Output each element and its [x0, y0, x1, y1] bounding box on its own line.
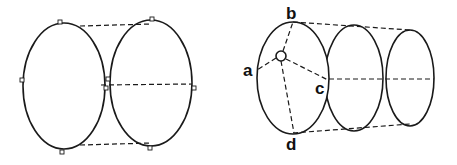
marker-square — [192, 86, 196, 90]
back-ellipse — [386, 30, 434, 126]
center-circle — [276, 51, 286, 61]
marker-square — [148, 146, 152, 150]
left-ellipse-2 — [110, 20, 192, 146]
label-d: d — [286, 135, 296, 154]
diagram-canvas: b a c d — [0, 0, 457, 165]
left-ellipse-1 — [23, 23, 105, 149]
front-ellipse — [257, 22, 329, 134]
marker-square — [58, 20, 62, 24]
middle-ellipse — [325, 25, 383, 131]
middle-axis-line — [101, 84, 192, 85]
marker-square — [150, 17, 154, 21]
right-panel: b a c d — [243, 4, 434, 154]
marker-square — [104, 86, 108, 90]
label-a: a — [243, 61, 253, 80]
left-panel — [20, 17, 196, 154]
marker-square — [20, 78, 24, 82]
label-b: b — [286, 4, 296, 23]
marker-square — [60, 150, 64, 154]
label-c: c — [315, 79, 324, 98]
top-tangent-line — [80, 24, 152, 26]
marker-square — [106, 77, 110, 81]
square-markers — [20, 17, 196, 154]
